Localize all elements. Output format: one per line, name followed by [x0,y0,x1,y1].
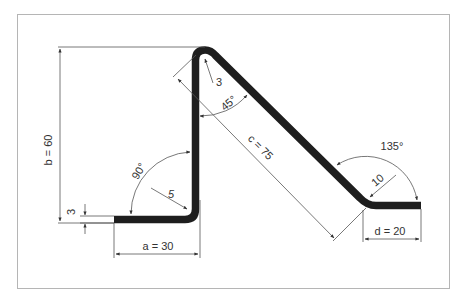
label-b: b = 60 [42,135,54,166]
label-a: a = 30 [143,240,174,252]
label-angle-135: 135° [381,140,404,152]
label-c: c = 75 [246,132,276,162]
label-radius-5: 5 [168,188,175,200]
label-thickness: 3 [65,209,77,215]
label-angle-45: 45° [218,93,238,113]
bent-strip [114,50,421,220]
label-d: d = 20 [375,225,406,237]
label-radius-3: 3 [216,76,222,88]
bent-strip-diagram: b = 60 3 a = 30 90° 5 3 45° c = 75 135° … [0,0,464,304]
label-angle-90: 90° [129,161,148,181]
dimension-b [58,47,205,223]
dimension-thickness [80,204,114,234]
angle-arc-90 [131,152,190,214]
radius-leader-3 [205,59,213,83]
